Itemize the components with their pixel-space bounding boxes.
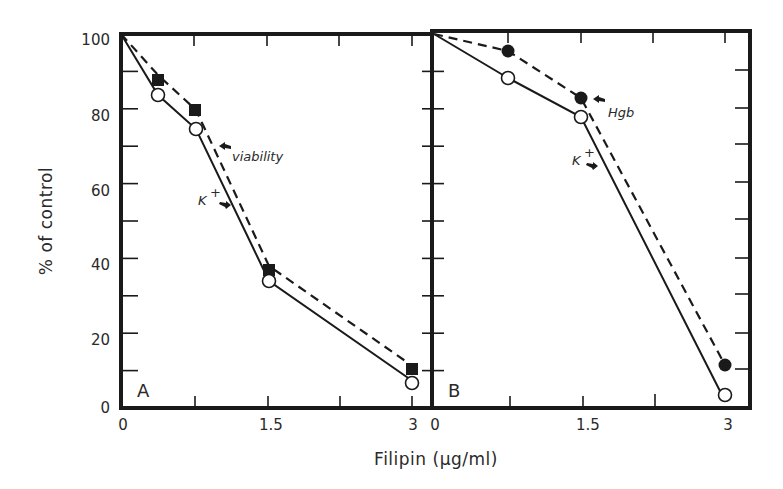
panel-b-k-annotation: K	[572, 153, 582, 168]
svg-text:1.5: 1.5	[259, 416, 283, 434]
svg-text:0: 0	[430, 416, 440, 434]
viability-annotation: viability	[232, 149, 283, 164]
svg-text:1.5: 1.5	[576, 416, 600, 434]
panel-a-y-ticks	[121, 71, 138, 370]
panel-a-potassium-series	[121, 34, 419, 390]
svg-text:0: 0	[100, 399, 110, 417]
panel-b-x-ticks	[508, 31, 725, 408]
y-axis-title: % of control	[36, 167, 56, 275]
panel-a-label: A	[137, 380, 150, 401]
x-tick-labels: 0 1.5 3 0 1.5 3	[118, 416, 733, 434]
panel-b-right-ticks	[735, 70, 750, 369]
panel-b-k-sup: +	[584, 145, 595, 160]
panel-a-frame	[121, 34, 432, 408]
panel-a-k-annotation: K	[198, 193, 208, 208]
panel-a-viability-series	[121, 34, 418, 375]
filipin-figure: 100 80 60 40 20 0 0 1.5 3 0 1.5 3 % of c…	[0, 0, 783, 489]
svg-text:80: 80	[91, 107, 110, 125]
svg-text:40: 40	[91, 256, 110, 274]
y-tick-labels: 100 80 60 40 20 0	[81, 31, 110, 417]
svg-text:0: 0	[118, 416, 128, 434]
x-axis-title: Filipin (µg/ml)	[374, 449, 498, 469]
svg-text:100: 100	[81, 31, 110, 49]
panel-b-frame	[432, 31, 750, 408]
panel-b-label: B	[448, 380, 460, 401]
svg-text:60: 60	[91, 182, 110, 200]
svg-text:3: 3	[723, 416, 733, 434]
svg-text:3: 3	[408, 416, 418, 434]
panel-a-x-ticks	[194, 34, 412, 408]
panel-a-k-sup: +	[210, 185, 221, 200]
svg-text:20: 20	[91, 331, 110, 349]
panel-b-potassium-series	[434, 34, 732, 402]
hgb-annotation: Hgb	[608, 105, 634, 120]
panel-b-hemoglobin-series	[434, 34, 732, 372]
